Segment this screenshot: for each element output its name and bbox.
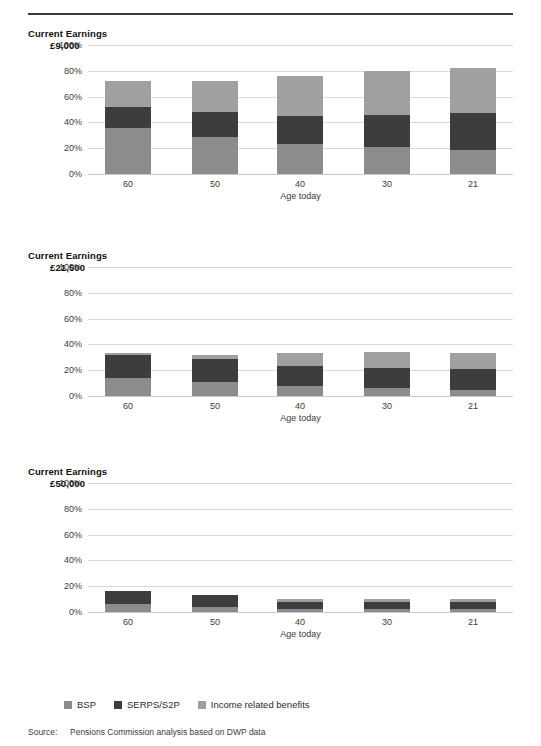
x-axis-tick-label: 60: [123, 617, 133, 627]
legend-label: SERPS/S2P: [127, 699, 180, 710]
y-axis-tick-label: 80%: [64, 504, 82, 514]
header-rule: [28, 13, 513, 15]
bar-group-age-50: 50: [192, 45, 238, 174]
figure-page: Current Earnings£9,0000%20%40%60%80%100%…: [0, 0, 541, 746]
y-axis-tick-label: 20%: [64, 365, 82, 375]
legend-label: BSP: [77, 699, 96, 710]
bar-group-age-30: 30: [364, 267, 410, 396]
bar-segment-bsp: [105, 604, 151, 612]
bar-segment-serps-s2p: [105, 107, 151, 128]
plot-inner: 0%20%40%60%80%100%6050403021Age today: [88, 267, 513, 396]
y-axis-tick-label: 0%: [69, 391, 82, 401]
x-axis-tick-label: 30: [382, 179, 392, 189]
bar-group-age-50: 50: [192, 267, 238, 396]
bar-segment-serps-s2p: [364, 368, 410, 389]
bar-segment-income-related-benefits: [277, 599, 323, 602]
bar-segment-bsp: [192, 607, 238, 612]
bar-segment-income-related-benefits: [277, 76, 323, 116]
x-axis-tick-label: 40: [295, 179, 305, 189]
y-axis-tick-label: 40%: [64, 555, 82, 565]
bar-segment-bsp: [277, 386, 323, 396]
chart-title-text: Current Earnings: [28, 466, 107, 477]
bar-group-age-40: 40: [277, 45, 323, 174]
legend-item-1: SERPS/S2P: [114, 699, 180, 710]
source-note: Source:Pensions Commission analysis base…: [28, 727, 265, 737]
y-axis-tick-label: 20%: [64, 581, 82, 591]
bar-group-age-60: 60: [105, 45, 151, 174]
bar-segment-serps-s2p: [450, 602, 496, 610]
bar-group-age-60: 60: [105, 267, 151, 396]
bar-segment-bsp: [364, 147, 410, 174]
y-axis-tick-label: 100%: [59, 478, 82, 488]
y-axis-tick-label: 60%: [64, 314, 82, 324]
bar-segment-income-related-benefits: [192, 355, 238, 359]
bar-segment-bsp: [192, 382, 238, 396]
x-axis-line: [88, 396, 513, 397]
bar-segment-bsp: [450, 609, 496, 612]
legend-label: Income related benefits: [211, 699, 310, 710]
bar-segment-bsp: [450, 390, 496, 396]
chart-legend: BSPSERPS/S2PIncome related benefits: [0, 699, 541, 710]
source-text: Pensions Commission analysis based on DW…: [70, 727, 265, 737]
x-axis-title: Age today: [280, 629, 321, 639]
chart-title-text: Current Earnings: [28, 250, 107, 261]
bar-segment-income-related-benefits: [450, 68, 496, 113]
bar-segment-income-related-benefits: [450, 353, 496, 368]
source-label: Source:: [28, 727, 70, 737]
bar-segment-serps-s2p: [450, 369, 496, 390]
x-axis-tick-label: 30: [382, 401, 392, 411]
x-axis-tick-label: 21: [468, 179, 478, 189]
x-axis-tick-label: 60: [123, 179, 133, 189]
bar-group-age-60: 60: [105, 483, 151, 612]
y-axis-tick-label: 80%: [64, 66, 82, 76]
bar-group-age-30: 30: [364, 45, 410, 174]
x-axis-tick-label: 60: [123, 401, 133, 411]
plot-inner: 0%20%40%60%80%100%6050403021Age today: [88, 45, 513, 174]
bar-segment-bsp: [105, 128, 151, 174]
bar-group-age-40: 40: [277, 267, 323, 396]
x-axis-title: Age today: [280, 191, 321, 201]
bar-segment-bsp: [364, 609, 410, 612]
bar-segment-income-related-benefits: [105, 81, 151, 107]
x-axis-line: [88, 174, 513, 175]
y-axis-tick-label: 100%: [59, 262, 82, 272]
y-axis-tick-label: 40%: [64, 339, 82, 349]
bar-group-age-21: 21: [450, 267, 496, 396]
legend-item-2: Income related benefits: [198, 699, 310, 710]
x-axis-tick-label: 40: [295, 401, 305, 411]
bar-segment-serps-s2p: [192, 112, 238, 137]
bar-segment-income-related-benefits: [364, 352, 410, 367]
bar-segment-income-related-benefits: [105, 353, 151, 354]
x-axis-title: Age today: [280, 413, 321, 423]
bar-segment-bsp: [450, 150, 496, 175]
bar-segment-serps-s2p: [450, 113, 496, 149]
y-axis-tick-label: 80%: [64, 288, 82, 298]
bar-segment-bsp: [277, 609, 323, 612]
y-axis-tick-label: 40%: [64, 117, 82, 127]
x-axis-tick-label: 40: [295, 617, 305, 627]
bar-segment-serps-s2p: [105, 355, 151, 378]
y-axis-tick-label: 20%: [64, 143, 82, 153]
legend-swatch-icon: [64, 701, 72, 709]
x-axis-tick-label: 21: [468, 617, 478, 627]
chart-title-text: Current Earnings: [28, 28, 107, 39]
bar-segment-bsp: [277, 144, 323, 174]
legend-item-0: BSP: [64, 699, 96, 710]
legend-swatch-icon: [114, 701, 122, 709]
x-axis-tick-label: 50: [210, 401, 220, 411]
y-axis-tick-label: 60%: [64, 530, 82, 540]
bar-group-age-40: 40: [277, 483, 323, 612]
bar-segment-serps-s2p: [192, 595, 238, 607]
bar-segment-income-related-benefits: [277, 353, 323, 366]
bar-segment-bsp: [192, 137, 238, 174]
plot-inner: 0%20%40%60%80%100%6050403021Age today: [88, 483, 513, 612]
bar-group-age-50: 50: [192, 483, 238, 612]
x-axis-tick-label: 50: [210, 617, 220, 627]
bar-segment-serps-s2p: [277, 366, 323, 385]
bar-group-age-21: 21: [450, 45, 496, 174]
plot-area-1: 0%20%40%60%80%100%6050403021Age today: [88, 45, 513, 174]
bar-segment-bsp: [364, 388, 410, 396]
x-axis-tick-label: 21: [468, 401, 478, 411]
bar-segment-income-related-benefits: [450, 599, 496, 602]
bar-group-age-30: 30: [364, 483, 410, 612]
